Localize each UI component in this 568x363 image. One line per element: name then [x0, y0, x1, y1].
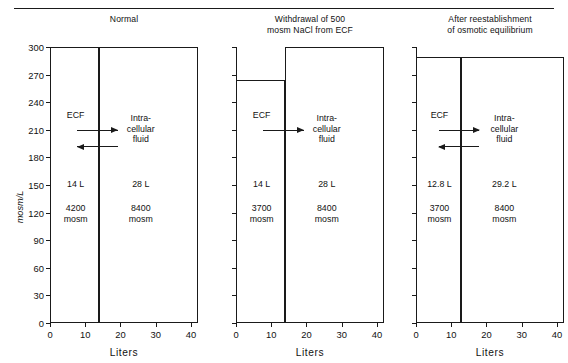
x-tick: [522, 323, 523, 327]
x-tick-label: 10: [446, 329, 456, 340]
x-axis-title-normal: Liters: [110, 347, 139, 358]
y-tick-label: 60: [34, 262, 44, 273]
ecf-osmoles-line: mosm: [53, 214, 99, 225]
flux-arrow-right-withdrawal: [263, 130, 304, 131]
panel-withdrawal: Withdrawal of 500mosm NaCl from ECF01020…: [213, 0, 404, 363]
icf-label-line: Intra-: [481, 113, 527, 124]
y-tick: [412, 47, 416, 48]
x-tick: [50, 323, 51, 327]
panel-title-withdrawal: Withdrawal of 500mosm NaCl from ECF: [208, 14, 412, 36]
x-tick-label: 40: [372, 329, 382, 340]
x-tick-label: 20: [115, 329, 125, 340]
icf-volume-withdrawal: 28 L: [318, 179, 335, 190]
icf-label-line: cellular: [304, 124, 350, 135]
y-tick-label: 90: [34, 235, 44, 246]
x-axis-title-equilibrium: Liters: [476, 347, 505, 358]
icf-label-equilibrium: Intra-cellularfluid: [481, 113, 527, 145]
x-tick: [486, 323, 487, 327]
ecf-volume-withdrawal: 14 L: [253, 179, 270, 190]
x-tick-label: 0: [47, 329, 52, 340]
x-tick: [342, 323, 343, 327]
plot-area-equilibrium: 010203040ECFIntra-cellularfluid12.8 L29.…: [416, 47, 564, 323]
y-tick-label: 0: [39, 318, 44, 329]
x-tick: [416, 323, 417, 327]
icf-label-line: cellular: [481, 124, 527, 135]
x-tick: [120, 323, 121, 327]
x-tick-label: 20: [301, 329, 311, 340]
panel-title-line: Normal: [22, 14, 226, 25]
ecf-label-equilibrium: ECF: [431, 110, 449, 121]
icf-osmoles-equilibrium: 8400mosm: [481, 203, 527, 224]
icf-osmoles-line: 8400: [118, 203, 164, 214]
x-tick: [557, 323, 558, 327]
icf-osmoles-line: 8400: [481, 203, 527, 214]
ecf-volume-equilibrium: 12.8 L: [427, 179, 451, 190]
icf-label-line: fluid: [118, 134, 164, 145]
panel-title-equilibrium: After reestablishmentof osmotic equilibr…: [388, 14, 568, 36]
y-tick-label: 120: [28, 207, 44, 218]
y-tick-label: 30: [34, 290, 44, 301]
panel-title-line: mosm NaCl from ECF: [208, 25, 412, 36]
icf-label-line: fluid: [304, 134, 350, 145]
icf-volume-equilibrium: 29.2 L: [492, 179, 516, 190]
ecf-osmoles-line: mosm: [416, 214, 462, 225]
y-tick: [232, 75, 236, 76]
icf-osmoles-line: mosm: [481, 214, 527, 225]
ecf-box-equilibrium: [416, 57, 461, 323]
icf-osmoles-line: mosm: [118, 214, 164, 225]
x-tick: [191, 323, 192, 327]
icf-label-line: fluid: [481, 134, 527, 145]
ecf-volume-normal: 14 L: [67, 179, 84, 190]
y-tick-label: 210: [28, 124, 44, 135]
x-tick: [451, 323, 452, 327]
y-tick-label: 240: [28, 97, 44, 108]
ecf-osmoles-line: 3700: [239, 203, 285, 214]
flux-arrow-left-normal: [77, 146, 118, 147]
y-tick-label: 300: [28, 42, 44, 53]
flux-arrow-right-equilibrium: [439, 130, 480, 131]
flux-arrow-right-normal: [77, 130, 118, 131]
panel-title-line: of osmotic equilibrium: [388, 25, 568, 36]
icf-volume-normal: 28 L: [132, 179, 149, 190]
panel-title-normal: Normal: [22, 14, 226, 25]
x-tick: [85, 323, 86, 327]
x-tick-label: 0: [233, 329, 238, 340]
x-tick-label: 40: [186, 329, 196, 340]
x-tick-label: 10: [80, 329, 90, 340]
panel-equilibrium: After reestablishmentof osmotic equilibr…: [398, 0, 568, 363]
icf-label-withdrawal: Intra-cellularfluid: [304, 113, 350, 145]
icf-box-equilibrium: [461, 57, 564, 323]
y-tick-label: 270: [28, 69, 44, 80]
x-tick-label: 20: [481, 329, 491, 340]
compartment-divider-equilibrium: [461, 57, 462, 323]
arrow-head-right: [297, 127, 304, 133]
flux-arrow-left-equilibrium: [439, 146, 480, 147]
icf-osmoles-withdrawal: 8400mosm: [304, 203, 350, 224]
compartment-divider-withdrawal: [285, 47, 286, 323]
icf-label-line: cellular: [118, 124, 164, 135]
compartment-divider-normal: [99, 47, 100, 323]
panel-title-line: After reestablishment: [388, 14, 568, 25]
y-axis-title: mosm/L: [15, 190, 25, 223]
x-tick-label: 0: [413, 329, 418, 340]
panel-normal: Normal0306090120150180210240270300010203…: [0, 0, 218, 363]
plot-area-withdrawal: 010203040ECFIntra-cellularfluid14 L28 L3…: [236, 47, 384, 323]
x-tick: [156, 323, 157, 327]
icf-osmoles-line: 8400: [304, 203, 350, 214]
x-tick: [377, 323, 378, 327]
icf-label-normal: Intra-cellularfluid: [118, 113, 164, 145]
icf-label-line: Intra-: [304, 113, 350, 124]
x-tick-label: 30: [516, 329, 526, 340]
x-tick-label: 10: [266, 329, 276, 340]
icf-osmoles-normal: 8400mosm: [118, 203, 164, 224]
ecf-osmoles-equilibrium: 3700mosm: [416, 203, 462, 224]
x-tick: [236, 323, 237, 327]
plot-area-normal: 0306090120150180210240270300010203040ECF…: [50, 47, 198, 323]
x-tick-label: 40: [552, 329, 562, 340]
y-tick: [232, 47, 236, 48]
ecf-osmoles-line: 3700: [416, 203, 462, 214]
arrow-head-right: [473, 127, 480, 133]
arrow-head-right: [111, 127, 118, 133]
ecf-osmoles-line: mosm: [239, 214, 285, 225]
arrow-head-left: [77, 144, 84, 150]
